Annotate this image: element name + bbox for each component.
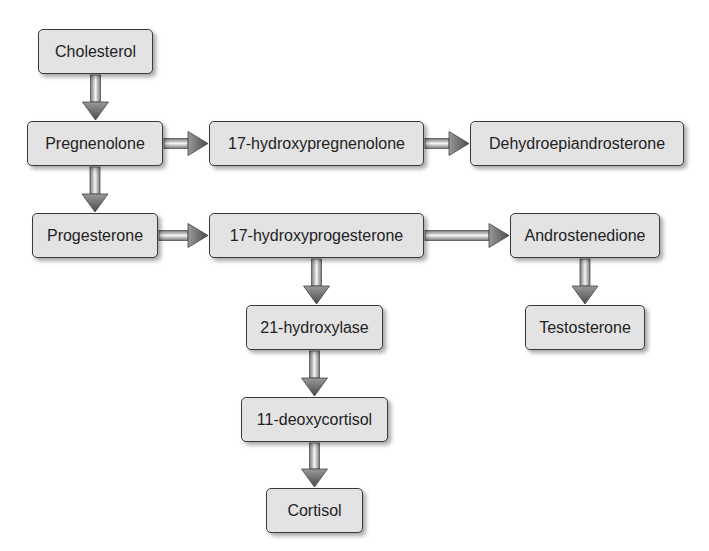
arrow-progesterone-to-hydroxyprogesterone: [159, 224, 208, 248]
arrow-androstenedione-to-testosterone: [572, 259, 598, 304]
arrow-hydroxylase21-to-deoxycortisol: [302, 351, 328, 396]
node-hydroxyprogesterone: 17-hydroxyprogesterone: [209, 213, 424, 258]
node-testosterone: Testosterone: [525, 305, 645, 350]
arrow-hydroxypregnenolone-to-dhea: [425, 132, 469, 156]
arrow-hydroxyprogesterone-to-hydroxylase21: [304, 259, 330, 304]
arrow-hydroxyprogesterone-to-androstenedione: [425, 224, 509, 248]
arrow-pregnenolone-to-hydroxypregnenolone: [164, 132, 208, 156]
node-hydroxypregnenolone: 17-hydroxypregnenolone: [209, 121, 424, 166]
node-deoxycortisol: 11-deoxycortisol: [241, 397, 388, 442]
arrow-cholesterol-to-pregnenolone: [83, 75, 109, 120]
arrow-deoxycortisol-to-cortisol: [302, 443, 328, 487]
arrows-layer: [0, 0, 709, 551]
node-pregnenolone: Pregnenolone: [27, 121, 163, 166]
node-dhea: Dehydroepiandrosterone: [470, 121, 684, 166]
node-cholesterol: Cholesterol: [38, 29, 153, 74]
node-cortisol: Cortisol: [266, 488, 363, 533]
arrow-pregnenolone-to-progesterone: [82, 167, 108, 212]
node-androstenedione: Androstenedione: [510, 213, 660, 258]
node-progesterone: Progesterone: [32, 213, 158, 258]
node-hydroxylase21: 21-hydroxylase: [246, 305, 383, 350]
